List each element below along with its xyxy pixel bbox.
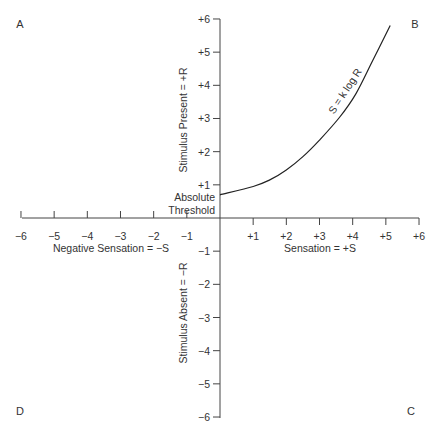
x-tick-label: +5 <box>380 230 392 242</box>
x-tick-label: +2 <box>280 230 292 242</box>
y-tick-label: +1 <box>198 179 210 191</box>
y-tick-label: −5 <box>198 378 210 390</box>
quadrant-label-d: D <box>16 405 24 417</box>
x-tick-label: +3 <box>314 230 326 242</box>
x-tick-label: −5 <box>48 230 60 242</box>
absolute-threshold-label-line1: Absolute <box>174 191 215 203</box>
y-tick-label: −1 <box>198 245 210 257</box>
y-tick-label: −4 <box>198 345 210 357</box>
x-tick-label: −1 <box>181 230 193 242</box>
negative-sensation-label: Negative Sensation = −S <box>53 242 169 254</box>
x-tick-label: −2 <box>148 230 160 242</box>
y-tick-label: +3 <box>198 112 210 124</box>
absolute-threshold-label-line2: Threshold <box>168 204 215 216</box>
y-tick-label: −6 <box>198 411 210 423</box>
sensation-label: Sensation = +S <box>284 242 356 254</box>
x-tick-label: −6 <box>15 230 27 242</box>
quadrant-label-c: C <box>407 405 415 417</box>
x-tick-label: +4 <box>347 230 359 242</box>
quadrant-label-b: B <box>411 18 418 30</box>
log-law-curve <box>220 26 390 195</box>
y-tick-label: −3 <box>198 312 210 324</box>
y-tick-label: +4 <box>198 79 210 91</box>
y-tick-label: +6 <box>198 13 210 25</box>
y-tick-label: +2 <box>198 146 210 158</box>
x-tick-label: −3 <box>114 230 126 242</box>
quadrant-label-a: A <box>16 18 24 30</box>
x-tick-label: −4 <box>81 230 93 242</box>
four-quadrant-diagram: −6−5−4−3−2−1+1+2+3+4+5+6 +6+5+4+3+2+1−1−… <box>0 0 439 434</box>
y-tick-label: −2 <box>198 278 210 290</box>
stimulus-absent-label: Stimulus Absent = −R <box>177 262 189 363</box>
y-tick-label: +5 <box>198 46 210 58</box>
x-tick-label: +6 <box>413 230 425 242</box>
x-tick-label: +1 <box>247 230 259 242</box>
stimulus-present-label: Stimulus Present = +R <box>177 67 189 172</box>
